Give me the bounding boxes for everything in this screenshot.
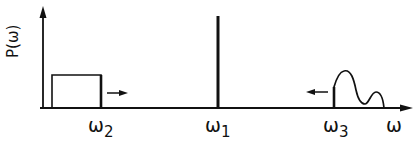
marker-symbol: ω bbox=[88, 114, 104, 136]
marker-subscript: 1 bbox=[221, 123, 231, 141]
marker-subscript: 3 bbox=[339, 123, 349, 141]
marker-symbol: ω bbox=[205, 114, 221, 136]
x-axis-arrow-icon bbox=[400, 105, 413, 112]
marker-symbol: ω bbox=[323, 114, 339, 136]
spectral-curve bbox=[334, 71, 384, 108]
right-arrow-icon bbox=[119, 90, 128, 96]
marker-label-omega-2: ω2 bbox=[88, 116, 113, 135]
y-axis-arrow-icon bbox=[40, 6, 47, 18]
y-axis-label: P(ω) bbox=[4, 25, 22, 58]
x-axis-label: ω bbox=[386, 116, 402, 135]
left-arrow-icon bbox=[306, 89, 315, 95]
marker-subscript: 2 bbox=[104, 123, 114, 141]
marker-label-omega-3: ω3 bbox=[323, 116, 348, 135]
rect-pulse bbox=[52, 75, 101, 108]
marker-label-omega-1: ω1 bbox=[205, 116, 230, 135]
